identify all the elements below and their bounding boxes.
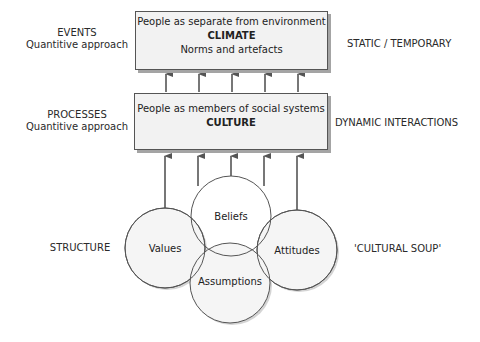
events-subtitle: Quantitive approach (22, 39, 132, 51)
structure-label: STRUCTURE (40, 242, 120, 254)
climate-line3: Norms and artefacts (136, 43, 327, 57)
events-label: EVENTS Quantitive approach (22, 27, 132, 51)
climate-title: CLIMATE (136, 29, 327, 43)
cultural-soup-label: 'CULTURAL SOUP' (354, 243, 441, 255)
culture-box: People as members of social systems CULT… (134, 93, 328, 150)
dynamic-interactions-label: DYNAMIC INTERACTIONS (335, 117, 458, 129)
climate-line1: People as separate from environment (136, 15, 327, 29)
processes-subtitle: Quantitive approach (22, 121, 132, 133)
attitudes-label: Attitudes (274, 245, 319, 257)
climate-box: People as separate from environment CLIM… (135, 11, 328, 70)
processes-title: PROCESSES (22, 109, 132, 121)
culture-title: CULTURE (135, 116, 327, 130)
assumptions-label: Assumptions (198, 276, 262, 288)
arrows-culture-to-climate (166, 74, 298, 92)
values-label: Values (149, 243, 182, 255)
events-title: EVENTS (22, 27, 132, 39)
culture-line1: People as members of social systems (135, 102, 327, 116)
processes-label: PROCESSES Quantitive approach (22, 109, 132, 133)
static-temporary-label: STATIC / TEMPORARY (347, 38, 451, 50)
beliefs-label: Beliefs (214, 211, 247, 223)
arrows-structure-to-culture (165, 156, 297, 210)
